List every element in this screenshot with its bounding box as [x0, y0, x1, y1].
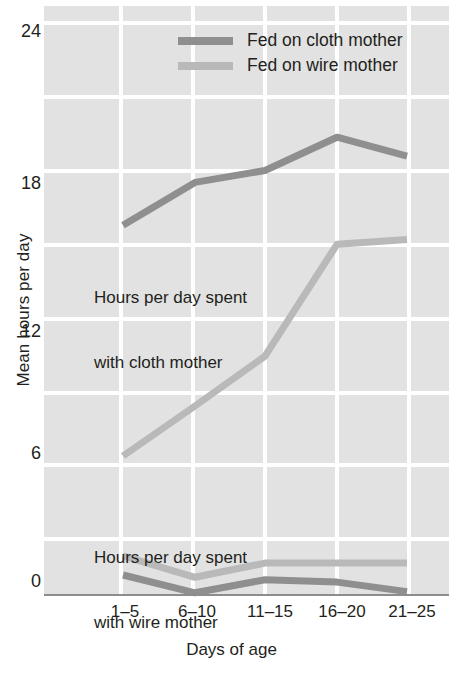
x-tick-label: 21–25	[388, 602, 435, 622]
legend-swatch-cloth	[178, 37, 233, 45]
annotation-wire-mother: Hours per day spent with wire mother	[94, 503, 247, 677]
legend-item-cloth: Fed on cloth mother	[178, 28, 403, 53]
chart-figure: 24 18 12 6 0 Mean hours per day 1–5 6–10…	[0, 0, 463, 684]
annotation-wire-line2: with wire mother	[94, 612, 247, 634]
y-tick-label: 24	[0, 22, 41, 40]
annotation-wire-line1: Hours per day spent	[94, 547, 247, 569]
x-tick-label: 16–20	[318, 602, 365, 622]
y-tick-label: 6	[0, 444, 41, 462]
y-tick-label: 0	[0, 572, 41, 590]
chart-legend: Fed on cloth mother Fed on wire mother	[178, 28, 403, 78]
x-tick-label: 11–15	[247, 602, 293, 622]
y-axis-title: Mean hours per day	[14, 220, 34, 400]
annotation-cloth-mother: Hours per day spent with cloth mother	[94, 243, 247, 417]
legend-item-wire: Fed on wire mother	[178, 53, 403, 78]
legend-swatch-wire	[178, 62, 233, 70]
annotation-cloth-line1: Hours per day spent	[94, 287, 247, 309]
series-line-cloth-fed-with-cloth	[123, 137, 407, 225]
y-tick-label: 18	[0, 174, 41, 192]
annotation-cloth-line2: with cloth mother	[94, 352, 247, 374]
legend-label-cloth: Fed on cloth mother	[247, 30, 403, 51]
legend-label-wire: Fed on wire mother	[247, 55, 398, 76]
